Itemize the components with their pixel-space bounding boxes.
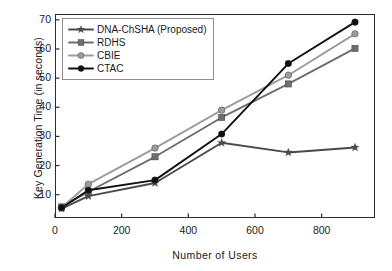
legend-marker-icon [68,23,94,36]
legend-label: CTAC [94,63,123,74]
legend-item: RDHS [68,36,206,49]
y-tick-label: 60 [17,42,51,54]
legend-label: RDHS [94,37,125,48]
x-tick-label: 200 [102,224,142,236]
x-axis-title: Number of Users [55,249,375,261]
chart-figure: Key Generation Time (in seconds) Number … [0,0,392,271]
x-tick-label: 0 [35,224,75,236]
y-tick-label: 30 [17,129,51,141]
legend-label: DNA-ChSHA (Proposed) [94,24,206,35]
y-tick-label: 50 [17,71,51,83]
legend-marker-icon [68,49,94,62]
chart-legend: DNA-ChSHA (Proposed)RDHSCBIECTAC [62,18,214,80]
legend-marker-icon [68,36,94,49]
legend-item: CBIE [68,49,206,62]
x-tick-label: 800 [302,224,342,236]
y-tick-label: 20 [17,159,51,171]
y-tick-label: 40 [17,100,51,112]
legend-item: DNA-ChSHA (Proposed) [68,23,206,36]
legend-label: CBIE [94,50,120,61]
y-tick-label: 10 [17,188,51,200]
x-tick-label: 400 [168,224,208,236]
x-tick-label: 600 [235,224,275,236]
y-tick-label: 70 [17,13,51,25]
legend-marker-icon [68,62,94,75]
legend-item: CTAC [68,62,206,75]
